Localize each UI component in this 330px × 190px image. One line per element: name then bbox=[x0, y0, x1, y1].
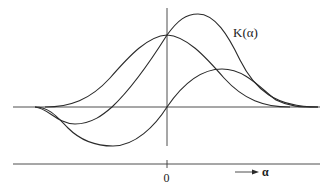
curve-k-alpha bbox=[35, 14, 318, 124]
curve-odd bbox=[35, 69, 318, 146]
origin-label: 0 bbox=[164, 171, 170, 185]
alpha-arrow-head-icon bbox=[252, 170, 259, 175]
alpha-axis-label: α bbox=[262, 165, 269, 179]
curve-symmetric-bell bbox=[45, 35, 290, 107]
k-alpha-label: K(α) bbox=[233, 25, 258, 40]
kernel-diagram: K(α) 0 α bbox=[0, 0, 330, 190]
